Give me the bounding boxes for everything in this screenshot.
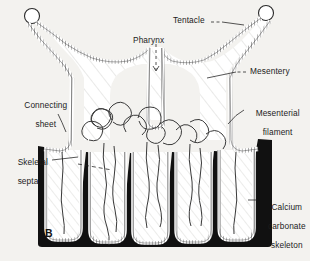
label-mesenterial-filament-line1: Mesenterial <box>256 108 300 118</box>
panel-letter: B <box>45 227 53 239</box>
label-calcium-skeleton-line2: carbonate <box>268 221 306 231</box>
label-mesentery: Mesentery <box>250 67 290 76</box>
label-connecting-sheet: Connecting sheet <box>10 92 72 139</box>
label-mesenterial-filament: Mesenterial filament <box>246 100 300 147</box>
label-connecting-sheet-line1: Connecting <box>24 100 67 110</box>
leader-tentacle-2 <box>222 22 244 25</box>
label-skeletal-septa-line1: Skeletal <box>18 157 48 167</box>
label-pharynx: Pharynx <box>133 36 164 45</box>
label-calcium-skeleton-line3: skeleton <box>271 240 303 250</box>
label-calcium-skeleton-line1: Calcium <box>271 202 302 212</box>
label-skeletal-septa-line2: septa <box>18 176 39 186</box>
label-mesenterial-filament-line2: filament <box>263 128 293 137</box>
label-skeletal-septa: Skeletal septa <box>8 149 48 196</box>
label-calcium-carbonate-skeleton: Calcium carbonate skeleton <box>255 194 309 260</box>
label-tentacle: Tentacle <box>173 16 205 25</box>
polyp-lobe-cavities <box>46 150 254 243</box>
label-connecting-sheet-line2: sheet <box>35 119 56 129</box>
coral-polyp-diagram: Tentacle Pharynx Mesentery Mesenterial f… <box>0 0 310 261</box>
